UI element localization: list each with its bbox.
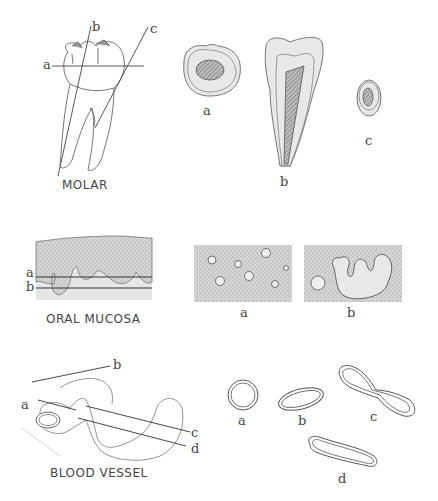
molar-section-c [357, 80, 381, 116]
oral-mucosa-drawing [36, 236, 152, 300]
molar-section-b [265, 37, 323, 166]
mucosa-section-label-a: a [240, 306, 248, 319]
vessel-section-label-a: a [238, 414, 246, 427]
vessel-plane-label-b: b [113, 358, 121, 371]
mucosa-plane-label-a: a [26, 266, 34, 279]
oral-mucosa-section-b [304, 245, 402, 302]
vessel-plane-label-c: c [191, 426, 198, 439]
oral-mucosa-section-a [194, 245, 292, 302]
molar-section-a [184, 45, 241, 97]
molar-drawing [52, 26, 148, 176]
vessel-plane-label-d: d [191, 442, 199, 455]
oral-mucosa-caption: ORAL MUCOSA [46, 312, 141, 326]
molar-plane-label-b: b [92, 20, 100, 33]
mucosa-plane-label-b: b [26, 280, 34, 293]
molar-section-label-b: b [280, 175, 288, 188]
molar-caption: MOLAR [62, 178, 108, 192]
vessel-section-label-c: c [370, 410, 377, 423]
molar-section-label-a: a [203, 104, 211, 117]
blood-vessel-sections [228, 366, 415, 467]
vessel-section-d [309, 436, 377, 466]
mucosa-section-label-b: b [347, 306, 355, 319]
molar-section-label-c: c [365, 134, 372, 147]
vessel-section-label-d: d [338, 472, 346, 485]
diagram-canvas [0, 0, 438, 501]
vessel-plane-label-a: a [21, 398, 29, 411]
blood-vessel-caption: BLOOD VESSEL [50, 466, 148, 480]
blood-vessel-drawing [22, 366, 190, 460]
molar-plane-label-a: a [43, 58, 51, 71]
molar-plane-label-c: c [150, 22, 157, 35]
vessel-section-b [276, 383, 326, 414]
vessel-section-a [228, 380, 258, 410]
vessel-section-label-b: b [298, 414, 306, 427]
